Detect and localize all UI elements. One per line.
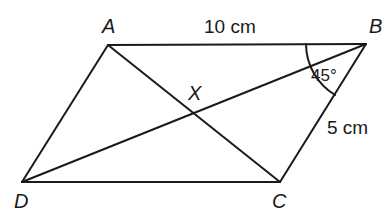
vertex-label-c: C bbox=[272, 190, 287, 212]
side-ab bbox=[108, 44, 366, 45]
vertex-label-b: B bbox=[369, 15, 382, 37]
intersection-label-x: X bbox=[187, 82, 202, 104]
vertex-label-d: D bbox=[14, 190, 28, 212]
parallelogram-diagram: A B C D X 10 cm 5 cm 45° bbox=[0, 0, 392, 219]
side-da bbox=[22, 45, 108, 182]
side-bc bbox=[280, 44, 366, 182]
measurement-bc: 5 cm bbox=[327, 117, 368, 138]
measurement-ab: 10 cm bbox=[204, 16, 256, 37]
diagonal-bd bbox=[22, 44, 366, 182]
angle-label-b: 45° bbox=[311, 66, 337, 85]
vertex-label-a: A bbox=[101, 15, 115, 37]
